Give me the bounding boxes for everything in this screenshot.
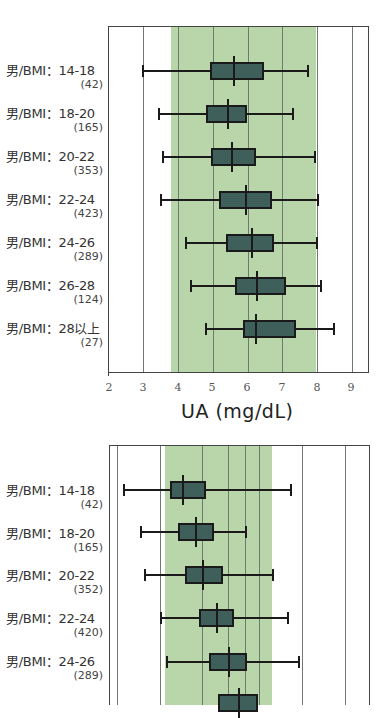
row-label: 男/BMI：20-22 [6, 150, 98, 164]
median-line [245, 185, 247, 215]
row-label: 男/BMI：24-26 [6, 236, 98, 250]
median-line [251, 228, 253, 258]
whisker-cap-max [272, 569, 274, 581]
median-line [228, 647, 230, 677]
whisker-cap-max [316, 237, 318, 249]
row-count: (165) [6, 122, 103, 134]
x-tick-label: 3 [140, 381, 147, 394]
row-label: 男/BMI：14-18 [6, 484, 98, 498]
gridline-9 [352, 27, 353, 372]
row-label: 男/BMI：28以上 [6, 322, 98, 336]
row-label: 男/BMI：22-24 [6, 193, 98, 207]
x-tick-label: 5 [209, 381, 216, 394]
median-line [227, 99, 229, 129]
row-count: (352) [6, 584, 103, 596]
whisker-cap-min [166, 656, 168, 668]
whisker-cap-max [290, 484, 292, 496]
whisker-cap-min [205, 323, 207, 335]
median-line [216, 603, 218, 633]
whisker-cap-min [190, 280, 192, 292]
whisker-line [124, 489, 291, 491]
row-label: 男/BMI：14-18 [6, 64, 98, 78]
whisker-cap-min [160, 612, 162, 624]
iqr-box [211, 148, 256, 166]
row-count: (42) [6, 79, 103, 91]
gridline [345, 446, 346, 705]
x-tick-label: 8 [314, 381, 321, 394]
median-line [182, 475, 184, 505]
whisker-cap-max [298, 656, 300, 668]
row-label: 男/BMI：22-24 [6, 612, 98, 626]
whisker-cap-max [320, 280, 322, 292]
iqr-box [226, 234, 274, 252]
whisker-cap-max [317, 194, 319, 206]
x-tick-label: 4 [175, 381, 182, 394]
whisker-cap-max [314, 151, 316, 163]
row-count: (27) [6, 337, 103, 349]
whisker-cap-max [307, 65, 309, 77]
row-count: (420) [6, 627, 103, 639]
x-tick-label: 7 [279, 381, 286, 394]
iqr-box [210, 62, 264, 80]
median-line [202, 560, 204, 590]
median-line [233, 56, 235, 86]
whisker-cap-max [333, 323, 335, 335]
whisker-cap-min [162, 151, 164, 163]
row-count: (353) [6, 165, 103, 177]
x-tick-label: 2 [106, 381, 113, 394]
whisker-cap-min [142, 65, 144, 77]
iqr-box [170, 481, 206, 499]
whisker-cap-max [245, 526, 247, 538]
whisker-cap-min [160, 194, 162, 206]
row-count: (423) [6, 208, 103, 220]
row-label: 男/BMI：24-26 [6, 655, 98, 669]
median-line [231, 142, 233, 172]
row-label: 男/BMI：18-20 [6, 107, 98, 121]
gridline [302, 446, 303, 705]
row-count: (289) [6, 670, 103, 682]
whisker-cap-min [185, 237, 187, 249]
x-tick-label: 9 [348, 381, 355, 394]
row-count: (165) [6, 542, 103, 554]
iqr-box [243, 320, 296, 338]
row-count: (289) [6, 251, 103, 263]
median-line [255, 314, 257, 344]
axis-tick-mark [108, 371, 109, 376]
whisker-cap-max [292, 108, 294, 120]
iqr-box [185, 566, 223, 584]
x-axis-title: UA (mg/dL) [181, 400, 293, 422]
row-label: 男/BMI：26-28 [6, 279, 98, 293]
iqr-box [235, 277, 286, 295]
whisker-cap-min [158, 108, 160, 120]
row-count: (124) [6, 294, 103, 306]
row-count: (42) [6, 499, 103, 511]
row-label: 男/BMI：20-22 [6, 569, 98, 583]
gridline-3 [143, 27, 144, 372]
whisker-cap-min [144, 569, 146, 581]
whisker-cap-min [123, 484, 125, 496]
x-tick-label: 6 [244, 381, 251, 394]
median-line [195, 517, 197, 547]
row-label: 男/BMI：18-20 [6, 527, 98, 541]
median-line [238, 688, 240, 718]
whisker-cap-min [140, 526, 142, 538]
median-line [256, 271, 258, 301]
gridline [117, 446, 118, 705]
whisker-cap-max [287, 612, 289, 624]
